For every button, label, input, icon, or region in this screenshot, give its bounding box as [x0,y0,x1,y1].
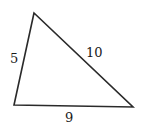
triangle-shape [14,13,133,107]
side-label-left: 5 [10,51,18,66]
side-label-base: 9 [65,110,73,125]
triangle-diagram: 5 10 9 [0,0,142,128]
side-label-hypotenuse: 10 [86,45,103,60]
